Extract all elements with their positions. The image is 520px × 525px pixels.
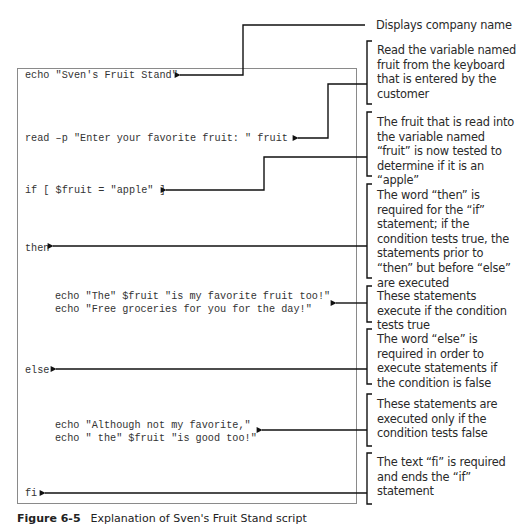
caption-label: Figure 6-5 bbox=[17, 512, 81, 525]
bracket-else-word bbox=[367, 329, 372, 384]
leader-read-variable bbox=[298, 84, 367, 138]
bracket-false-statements bbox=[367, 394, 372, 446]
bracket-fi-word bbox=[367, 453, 372, 504]
bracket-read-variable bbox=[367, 41, 372, 104]
leader-test-apple bbox=[166, 157, 367, 190]
caption-text: Explanation of Sven's Fruit Stand script bbox=[91, 512, 307, 525]
leader-company-name bbox=[180, 25, 365, 75]
bracket-test-apple bbox=[367, 112, 372, 176]
bracket-true-statements bbox=[367, 286, 372, 322]
figure-caption: Figure 6-5Explanation of Sven's Fruit St… bbox=[17, 512, 307, 525]
bracket-then-word bbox=[367, 184, 372, 278]
